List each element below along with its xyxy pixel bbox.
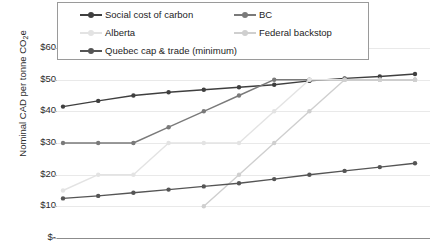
legend-item[interactable]: BC xyxy=(234,9,272,20)
series-line xyxy=(63,163,415,198)
y-axis-tick-label: $20 xyxy=(16,169,56,179)
data-point-marker xyxy=(202,109,206,113)
data-point-marker xyxy=(413,78,417,82)
y-axis-tick-label: $- xyxy=(16,232,56,242)
data-point-marker xyxy=(307,173,311,177)
line-chart: Nominal CAD per tonne CO2e $60$50$40$30$… xyxy=(0,0,430,244)
data-point-marker xyxy=(61,188,65,192)
y-axis-tick-label: $50 xyxy=(16,74,56,84)
chart-legend: Social cost of carbonBCAlbertaFederal ba… xyxy=(57,2,369,60)
legend-swatch-icon xyxy=(80,28,102,37)
data-point-marker xyxy=(61,141,65,145)
data-point-marker xyxy=(237,141,241,145)
data-point-marker xyxy=(272,177,276,181)
y-axis-tick-label: $30 xyxy=(16,137,56,147)
data-point-marker xyxy=(272,141,276,145)
y-axis-tick-labels: $60$50$40$30$20$10$- xyxy=(10,0,56,244)
data-point-marker xyxy=(237,93,241,97)
data-point-marker xyxy=(307,109,311,113)
data-point-marker xyxy=(131,141,135,145)
data-point-marker xyxy=(61,104,65,108)
legend-swatch-icon xyxy=(80,46,102,55)
data-point-marker xyxy=(237,85,241,89)
data-point-marker xyxy=(131,93,135,97)
data-point-marker xyxy=(131,173,135,177)
data-point-marker xyxy=(202,88,206,92)
data-point-marker xyxy=(131,191,135,195)
data-point-marker xyxy=(272,78,276,82)
data-point-marker xyxy=(96,194,100,198)
data-point-marker xyxy=(413,72,417,76)
data-point-marker xyxy=(237,181,241,185)
data-point-marker xyxy=(96,141,100,145)
legend-item-label: Alberta xyxy=(105,27,135,38)
data-point-marker xyxy=(61,196,65,200)
data-point-marker xyxy=(166,125,170,129)
legend-swatch-icon xyxy=(234,10,256,19)
legend-item-label: Social cost of carbon xyxy=(105,9,193,20)
legend-item-label: BC xyxy=(259,9,272,20)
data-point-marker xyxy=(202,184,206,188)
data-point-marker xyxy=(342,78,346,82)
data-point-marker xyxy=(96,173,100,177)
data-point-marker xyxy=(96,99,100,103)
data-point-marker xyxy=(166,90,170,94)
legend-swatch-icon xyxy=(234,28,256,37)
legend-item-label: Federal backstop xyxy=(259,27,332,38)
legend-item[interactable]: Quebec cap & trade (minimum) xyxy=(80,45,237,56)
data-point-marker xyxy=(237,173,241,177)
data-point-marker xyxy=(378,78,382,82)
legend-item[interactable]: Federal backstop xyxy=(234,27,332,38)
legend-item-label: Quebec cap & trade (minimum) xyxy=(105,45,237,56)
legend-swatch-icon xyxy=(80,10,102,19)
data-point-marker xyxy=(272,83,276,87)
data-point-marker xyxy=(166,141,170,145)
series-line xyxy=(63,74,415,107)
data-point-marker xyxy=(342,169,346,173)
data-point-marker xyxy=(202,141,206,145)
y-axis-tick-label: $60 xyxy=(16,42,56,52)
data-point-marker xyxy=(166,187,170,191)
data-point-marker xyxy=(307,78,311,82)
data-point-marker xyxy=(202,204,206,208)
data-point-marker xyxy=(413,161,417,165)
y-axis-tick-label: $40 xyxy=(16,105,56,115)
data-point-marker xyxy=(378,165,382,169)
legend-item[interactable]: Alberta xyxy=(80,27,135,38)
data-point-marker xyxy=(272,109,276,113)
y-axis-tick-label: $10 xyxy=(16,200,56,210)
legend-item[interactable]: Social cost of carbon xyxy=(80,9,193,20)
